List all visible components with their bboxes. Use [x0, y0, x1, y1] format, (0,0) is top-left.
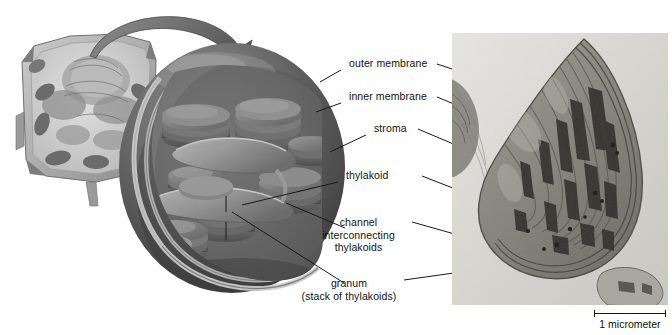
label-channel-line-1: channel	[311, 216, 406, 229]
scale-bar-rule	[594, 310, 666, 317]
label-granum: granum (stack of thylakoids)	[294, 277, 404, 302]
micrograph-chloroplast	[452, 33, 668, 305]
label-inner-membrane: inner membrane	[349, 90, 427, 102]
scale-bar: 1 micrometer	[592, 310, 668, 330]
label-granum-line-1: granum	[294, 277, 404, 290]
label-outer-membrane: outer membrane	[349, 57, 427, 69]
label-thylakoid: thylakoid	[346, 169, 388, 181]
label-channel-line-2: interconnecting	[311, 229, 406, 242]
micrograph-image	[452, 33, 668, 305]
label-stroma: stroma	[374, 122, 407, 134]
electron-micrograph	[452, 33, 668, 305]
leader-outer-membrane-left	[320, 70, 341, 82]
chloroplast-figure: outer membrane inner membrane stroma thy…	[0, 0, 672, 335]
scale-bar-label: 1 micrometer	[592, 318, 668, 330]
label-granum-line-2: (stack of thylakoids)	[294, 290, 404, 303]
label-channel-line-3: thylakoids	[311, 241, 406, 254]
label-channel-interconnecting-thylakoids: channel interconnecting thylakoids	[311, 216, 406, 254]
